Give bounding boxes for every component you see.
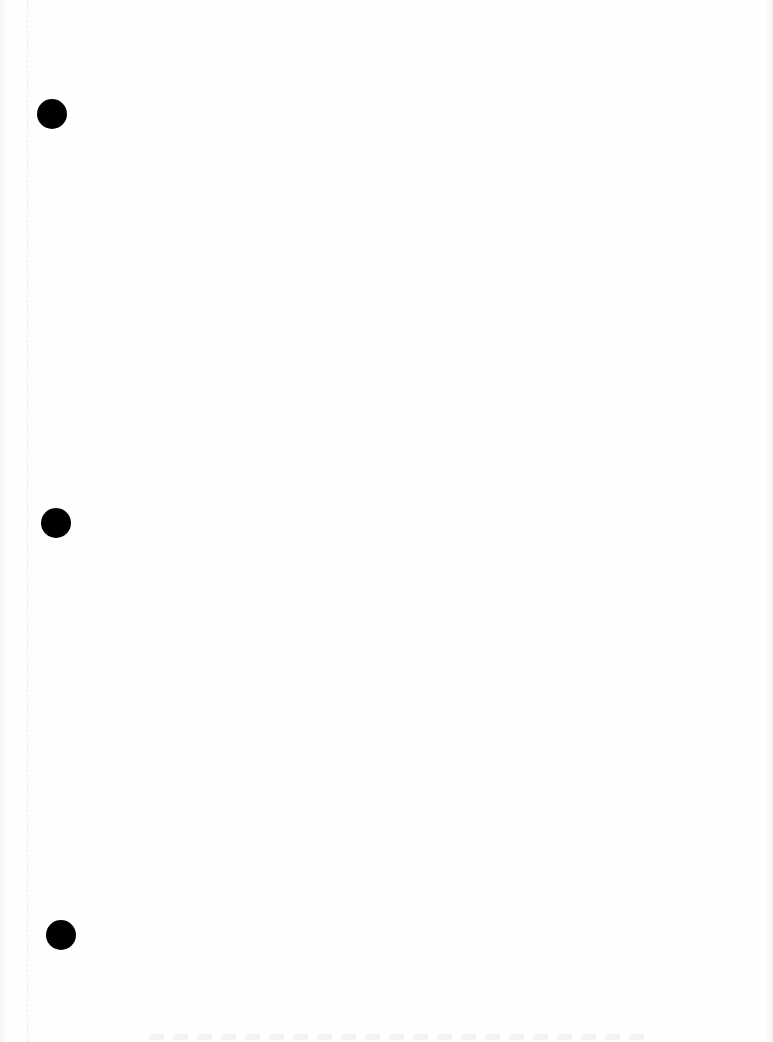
scanned-blank-page bbox=[0, 0, 773, 1042]
right-edge-shadow bbox=[765, 0, 773, 1042]
punch-hole-top bbox=[37, 99, 67, 129]
bleed-through-marks bbox=[150, 1034, 650, 1040]
left-edge-shadow bbox=[0, 0, 8, 1042]
punch-hole-middle bbox=[41, 508, 71, 538]
margin-line bbox=[27, 0, 28, 1042]
punch-hole-bottom bbox=[46, 920, 76, 950]
